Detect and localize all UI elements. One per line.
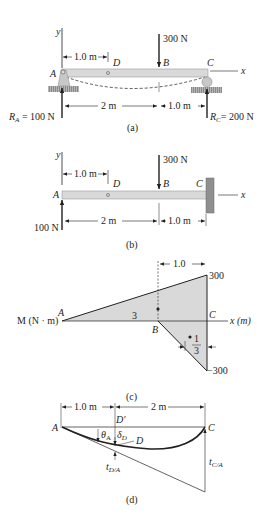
dim-AB-label: 2 m xyxy=(101,100,117,111)
moment-area xyxy=(62,275,207,371)
dim-BC-label: 1.0 m xyxy=(168,215,191,226)
point-C-label: C xyxy=(207,57,214,68)
figure-a-simply-supported-beam: y 1.0 m D 300 N B C x A 2 m xyxy=(8,26,254,134)
figure-b-cantilever-equivalent: y 1.0 m D 300 N B C x A 100 N 2 m 1.0 m … xyxy=(34,149,246,251)
reaction-C-label: RC= 200 N xyxy=(209,111,254,124)
caption-a: (a) xyxy=(127,122,138,134)
point-A-label: A xyxy=(57,307,65,318)
centroid-dot-lower xyxy=(188,335,191,338)
t-CA-label: tC/A xyxy=(209,456,223,469)
area-label-3: 3 xyxy=(132,310,137,321)
fixed-wall-C xyxy=(206,178,214,213)
load-label: 300 N xyxy=(163,154,188,165)
beam xyxy=(62,69,208,77)
point-C-label: C xyxy=(209,309,216,320)
y-axis-label: y xyxy=(55,26,61,37)
t-DA-label: tD/A xyxy=(106,461,121,474)
ground-A xyxy=(48,86,79,92)
y-axis-label: y xyxy=(55,149,61,160)
dim-top-label: 1.0 xyxy=(173,258,186,269)
figure-d-elastic-curve: 1.0 m 2 m A C D′ tC/A θA δD D tD/A xyxy=(51,401,223,506)
point-B-label: B xyxy=(163,178,169,189)
tangent-at-A xyxy=(62,427,205,492)
dim-BC-label: 1.0 m xyxy=(168,100,191,111)
point-B-label: B xyxy=(152,324,158,335)
frac-numerator: 1 xyxy=(194,333,199,344)
elastic-curve xyxy=(62,427,205,449)
delta-D-label: δD xyxy=(117,429,127,442)
caption-d: (d) xyxy=(126,494,138,506)
centroid-dot xyxy=(156,307,159,310)
dim-AD-label: 1.0 m xyxy=(74,51,97,62)
point-A-label: A xyxy=(51,422,59,433)
load-label: 300 N xyxy=(163,33,188,44)
dim-AD-label: 1.0 m xyxy=(74,168,97,179)
bottom-value: −300 xyxy=(207,365,228,376)
m-axis-label: M (N · m) xyxy=(17,315,58,327)
point-A-label: A xyxy=(52,189,60,200)
dim-DC-label: 2 m xyxy=(151,401,167,412)
reaction-A-label: RA = 100 N xyxy=(8,111,55,124)
frac-denominator: 3 xyxy=(194,345,199,356)
top-value: 300 xyxy=(209,270,224,281)
beam xyxy=(62,191,207,199)
point-A-label: A xyxy=(49,68,57,79)
point-D-label: D xyxy=(135,435,144,446)
caption-b: (b) xyxy=(126,239,138,251)
point-B-label: B xyxy=(163,57,169,68)
point-Dprime-label: D′ xyxy=(115,414,126,425)
caption-c: (c) xyxy=(126,391,137,403)
figure-c-moment-diagram: x (m) M (N · m) A B C 3 1.0 300 −300 1 3… xyxy=(17,258,251,403)
x-axis-label: x (m) xyxy=(229,315,251,327)
dim-AD-label: 1.0 m xyxy=(74,401,97,412)
theta-A-label: θA xyxy=(101,429,111,442)
deflected-shape-dashed xyxy=(66,77,205,89)
x-axis-label: x xyxy=(240,189,246,200)
beam-deflection-figure: y 1.0 m D 300 N B C x A 2 m xyxy=(0,0,268,527)
x-axis-label: x xyxy=(240,65,246,76)
roller-support-C xyxy=(202,77,212,87)
point-D-label: D xyxy=(112,57,121,68)
reaction-A-label: 100 N xyxy=(34,222,59,233)
point-D-label: D xyxy=(112,178,121,189)
point-C-label: C xyxy=(208,422,215,433)
point-C-label: C xyxy=(196,178,203,189)
pin-icon xyxy=(61,70,65,74)
dim-AB-label: 2 m xyxy=(101,215,117,226)
